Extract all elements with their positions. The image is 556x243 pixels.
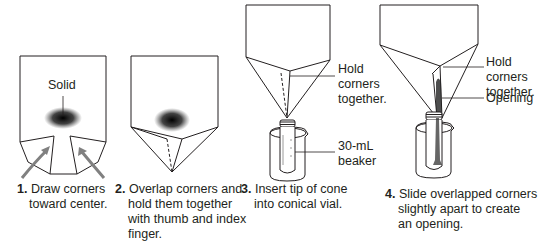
solid-label: Solid bbox=[48, 78, 76, 93]
step-number: 4. bbox=[385, 187, 395, 201]
step-number: 1. bbox=[17, 182, 27, 196]
step-text: Slide overlapped corners bbox=[399, 187, 537, 201]
step-text: an opening. bbox=[385, 217, 537, 232]
conical-vial-3 bbox=[280, 120, 295, 173]
step-number: 3. bbox=[241, 182, 251, 196]
step-text: finger. bbox=[115, 227, 246, 242]
beaker-label-3: 30-mL beaker bbox=[338, 139, 376, 169]
panel-4-funnel bbox=[380, 5, 478, 118]
label-line: beaker bbox=[338, 154, 376, 169]
step-text: toward center. bbox=[17, 197, 108, 212]
label-line: together. bbox=[338, 92, 387, 107]
step-text: Overlap corners and bbox=[129, 182, 242, 196]
label-line: 30-mL bbox=[338, 139, 376, 154]
label-line: Hold bbox=[338, 62, 387, 77]
hold-corners-label-3: Hold corners together. bbox=[338, 62, 387, 107]
label-line: Hold corners bbox=[486, 55, 556, 85]
solid-pile-2 bbox=[154, 108, 190, 132]
step-4-caption: 4. Slide overlapped corners slightly apa… bbox=[385, 187, 537, 232]
step-3-caption: 3. Insert tip of cone into conical vial. bbox=[241, 182, 347, 212]
step-text: Draw corners bbox=[31, 182, 105, 196]
step-text: Insert tip of cone bbox=[255, 182, 347, 196]
panel-3-funnel bbox=[246, 5, 330, 118]
step-number: 2. bbox=[115, 182, 125, 196]
step-text: into conical vial. bbox=[241, 197, 347, 212]
label-line: corners bbox=[338, 77, 387, 92]
step-2-caption: 2. Overlap corners and hold them togethe… bbox=[115, 182, 246, 242]
step-text: with thumb and index bbox=[115, 212, 246, 227]
step-text: slightly apart to create bbox=[385, 202, 537, 217]
opening-label-4: Opening bbox=[486, 91, 533, 106]
step-1-caption: 1. Draw corners toward center. bbox=[17, 182, 108, 212]
step-text: hold them together bbox=[115, 197, 246, 212]
